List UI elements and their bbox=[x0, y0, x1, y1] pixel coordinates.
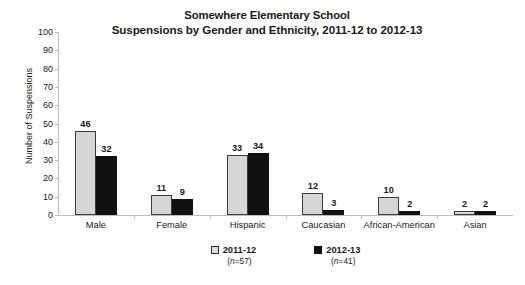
y-axis-tickmark bbox=[55, 215, 58, 216]
bar-group: 4632 bbox=[58, 32, 134, 215]
bar-value-label: 3 bbox=[331, 198, 336, 208]
bar-female-2011-12[interactable]: 11 bbox=[151, 195, 172, 215]
legend-swatch-icon bbox=[314, 246, 322, 254]
legend-swatch-icon bbox=[211, 246, 219, 254]
bar-value-label: 10 bbox=[384, 185, 394, 195]
legend-series-name: 2012-13 bbox=[326, 245, 360, 256]
x-axis-label-african-american: African-American bbox=[364, 219, 435, 231]
bar-male-2012-13[interactable]: 32 bbox=[96, 156, 117, 215]
plot-area: 1009080706050403020100 46321193334123102… bbox=[58, 32, 513, 215]
bar-value-label: 2 bbox=[483, 199, 488, 209]
legend-item-2011-12[interactable]: 2011-12(n=57) bbox=[211, 245, 257, 266]
bar-caucasian-2012-13[interactable]: 3 bbox=[323, 210, 344, 215]
y-axis-tick-0: 0 bbox=[7, 211, 53, 220]
legend-item-2012-13[interactable]: 2012-13(n=41) bbox=[314, 245, 360, 266]
y-axis-tick-90: 90 bbox=[7, 46, 53, 55]
legend-series-name: 2011-12 bbox=[223, 245, 257, 256]
y-axis-tick-60: 60 bbox=[7, 101, 53, 110]
bar-value-label: 33 bbox=[232, 143, 242, 153]
bar-hispanic-2012-13[interactable]: 34 bbox=[248, 153, 269, 215]
legend-text: 2012-13(n=41) bbox=[326, 245, 360, 266]
bar-asian-2012-13[interactable]: 2 bbox=[475, 211, 496, 215]
bar-group: 102 bbox=[361, 32, 437, 215]
bar-group: 3334 bbox=[210, 32, 286, 215]
bar-female-2012-13[interactable]: 9 bbox=[172, 199, 193, 215]
bar-male-2011-12[interactable]: 46 bbox=[75, 131, 96, 215]
bar-pair: 123 bbox=[302, 32, 344, 215]
bar-group: 119 bbox=[134, 32, 210, 215]
bar-value-label: 9 bbox=[180, 187, 185, 197]
y-axis-tick-80: 80 bbox=[7, 64, 53, 73]
bar-pair: 4632 bbox=[75, 32, 117, 215]
chart-legend: 2011-12(n=57)2012-13(n=41) bbox=[58, 245, 513, 266]
bar-pair: 22 bbox=[454, 32, 496, 215]
x-axis-category-labels: MaleFemaleHispanicCaucasianAfrican-Ameri… bbox=[58, 219, 513, 235]
bar-value-label: 2 bbox=[462, 199, 467, 209]
bar-african-american-2011-12[interactable]: 10 bbox=[378, 197, 399, 215]
x-axis-label-caucasian: Caucasian bbox=[301, 219, 345, 231]
bar-group: 22 bbox=[437, 32, 513, 215]
x-axis-label-hispanic: Hispanic bbox=[230, 219, 266, 231]
x-axis-label-asian: Asian bbox=[463, 219, 486, 231]
y-axis-tick-50: 50 bbox=[7, 119, 53, 128]
y-axis-tick-40: 40 bbox=[7, 137, 53, 146]
legend-sample-size: (n=57) bbox=[223, 256, 257, 267]
bar-value-label: 2 bbox=[407, 199, 412, 209]
y-axis-tick-70: 70 bbox=[7, 82, 53, 91]
chart-title-line-1: Somewhere Elementary School bbox=[52, 8, 482, 23]
bar-african-american-2012-13[interactable]: 2 bbox=[399, 211, 420, 215]
bar-hispanic-2011-12[interactable]: 33 bbox=[227, 155, 248, 215]
y-axis-tick-10: 10 bbox=[7, 192, 53, 201]
x-axis-label-male: Male bbox=[86, 219, 106, 231]
bar-value-label: 32 bbox=[101, 144, 111, 154]
bar-pair: 3334 bbox=[227, 32, 269, 215]
bar-value-label: 46 bbox=[80, 119, 90, 129]
legend-sample-size: (n=41) bbox=[326, 256, 360, 267]
bar-pair: 102 bbox=[378, 32, 420, 215]
bar-asian-2011-12[interactable]: 2 bbox=[454, 211, 475, 215]
x-axis-label-female: Female bbox=[156, 219, 187, 231]
bar-caucasian-2011-12[interactable]: 12 bbox=[302, 193, 323, 215]
bar-series-container: 4632119333412310222 bbox=[58, 32, 513, 215]
bar-pair: 119 bbox=[151, 32, 193, 215]
y-axis-tick-100: 100 bbox=[7, 28, 53, 37]
suspensions-bar-chart: Somewhere Elementary School Suspensions … bbox=[0, 0, 525, 285]
bar-group: 123 bbox=[286, 32, 362, 215]
bar-value-label: 34 bbox=[253, 141, 263, 151]
bar-value-label: 12 bbox=[308, 181, 318, 191]
legend-text: 2011-12(n=57) bbox=[223, 245, 257, 266]
y-axis-tick-20: 20 bbox=[7, 174, 53, 183]
bar-value-label: 11 bbox=[156, 183, 166, 193]
y-axis-tick-30: 30 bbox=[7, 156, 53, 165]
